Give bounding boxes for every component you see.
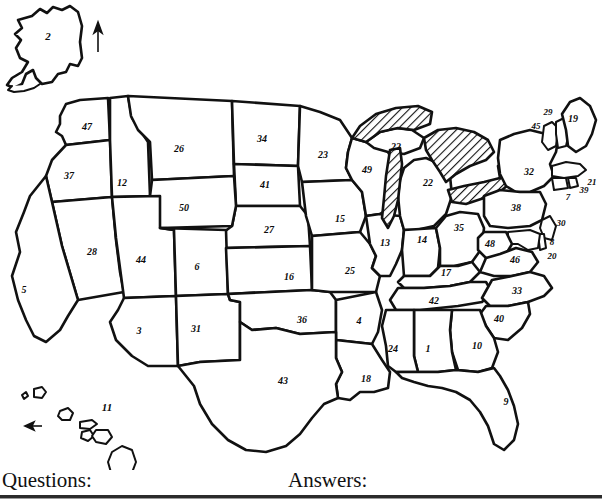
state-number-5: 5 (22, 285, 27, 295)
state-number-16: 16 (284, 272, 294, 282)
state-number-11: 11 (102, 402, 112, 412)
state-number-20: 20 (548, 251, 557, 261)
state-number-8: 8 (550, 237, 555, 247)
state-number-32: 32 (524, 167, 534, 177)
state-maine (562, 98, 596, 152)
state-number-13: 13 (380, 238, 390, 248)
state-number-44: 44 (136, 255, 146, 265)
west-pointing-arrow-icon (25, 422, 42, 430)
state-number-37: 37 (64, 171, 74, 181)
state-massachusetts (552, 162, 586, 178)
state-number-22: 22 (423, 178, 433, 188)
state-number-14: 14 (417, 235, 427, 245)
state-number-35: 35 (454, 223, 464, 233)
state-wyoming (150, 176, 236, 228)
state-number-46: 46 (510, 255, 520, 265)
state-number-1: 1 (426, 344, 431, 354)
worksheet-footer: Questions: Answers: (0, 460, 602, 504)
state-number-12: 12 (117, 178, 127, 188)
state-number-36: 36 (297, 315, 307, 325)
footer-divider (0, 495, 602, 498)
state-number-7: 7 (566, 192, 571, 202)
state-alabama (414, 310, 456, 372)
state-number-23: 23 (318, 150, 328, 160)
state-number-9: 9 (504, 397, 509, 407)
state-number-41: 41 (260, 180, 270, 190)
state-kansas (226, 246, 312, 294)
state-number-26: 26 (174, 144, 184, 154)
state-number-31: 31 (191, 324, 201, 334)
state-number-3: 3 (137, 326, 142, 336)
state-number-33: 33 (512, 286, 522, 296)
state-louisiana (336, 340, 390, 400)
state-rhode-island (568, 178, 578, 188)
state-number-30: 30 (557, 218, 566, 228)
state-number-43: 43 (278, 376, 288, 386)
state-maryland (508, 230, 540, 250)
state-number-42: 42 (429, 296, 439, 306)
state-number-38: 38 (511, 203, 521, 213)
north-arrow-icon (94, 22, 102, 52)
state-number-6: 6 (195, 262, 200, 272)
state-oregon (46, 140, 112, 202)
state-number-49: 49 (362, 165, 372, 175)
state-number-22: 22 (391, 142, 401, 152)
state-number-40: 40 (494, 314, 504, 324)
state-number-27: 27 (264, 225, 274, 235)
state-number-29: 29 (544, 107, 553, 117)
state-number-25: 25 (345, 266, 355, 276)
state-number-48: 48 (485, 239, 495, 249)
state-number-50: 50 (179, 203, 189, 213)
state-number-19: 19 (568, 114, 578, 124)
worksheet-page: 2473712263423415027154922222854461625131… (0, 0, 602, 504)
state-number-28: 28 (87, 247, 97, 257)
state-number-47: 47 (82, 122, 92, 132)
state-number-15: 15 (335, 214, 345, 224)
state-alaska (7, 6, 82, 88)
state-florida (396, 368, 518, 450)
state-new-mexico (176, 294, 240, 366)
state-number-45: 45 (532, 121, 541, 131)
state-number-39: 39 (580, 185, 589, 195)
answers-label: Answers: (288, 468, 367, 493)
state-mississippi (382, 310, 418, 372)
us-map-graphic (0, 0, 602, 470)
state-number-17: 17 (441, 268, 451, 278)
state-hawaii (22, 387, 136, 470)
state-number-18: 18 (361, 374, 371, 384)
state-number-2: 2 (45, 31, 51, 41)
state-connecticut (552, 178, 568, 190)
state-number-34: 34 (257, 134, 267, 144)
state-number-24: 24 (388, 344, 398, 354)
state-number-21: 21 (588, 177, 597, 187)
state-arizona (110, 296, 178, 366)
state-minnesota (298, 106, 352, 182)
state-iowa (302, 180, 366, 236)
questions-label: Questions: (2, 468, 92, 493)
state-number-4: 4 (357, 316, 362, 326)
state-number-10: 10 (472, 341, 482, 351)
